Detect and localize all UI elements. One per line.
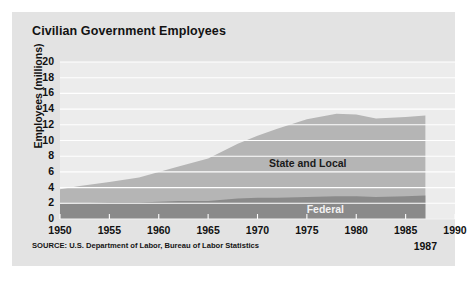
y-axis-tick-20: 20 <box>28 55 54 67</box>
x-axis-tick-1960: 1960 <box>136 224 182 236</box>
y-axis-tick-8: 8 <box>28 149 54 161</box>
x-axis-tick-1955: 1955 <box>86 224 132 236</box>
series-label-state-and-local: State and Local <box>269 157 347 169</box>
source-note: SOURCE: U.S. Department of Labor, Bureau… <box>32 241 259 250</box>
y-axis-tick-0: 0 <box>28 212 54 224</box>
end-year-annotation: 1987 <box>402 240 448 252</box>
series-label-federal: Federal <box>307 203 344 215</box>
x-axis-tick-1990: 1990 <box>432 224 471 236</box>
x-axis-tick-1950: 1950 <box>37 224 83 236</box>
y-axis-tick-4: 4 <box>28 181 54 193</box>
x-axis-tick-1965: 1965 <box>185 224 231 236</box>
y-axis-tick-10: 10 <box>28 134 54 146</box>
y-axis-tick-12: 12 <box>28 118 54 130</box>
y-axis-tick-6: 6 <box>28 165 54 177</box>
y-axis-tick-14: 14 <box>28 102 54 114</box>
x-axis-tick-1985: 1985 <box>383 224 429 236</box>
y-axis-tick-16: 16 <box>28 86 54 98</box>
y-axis-tick-2: 2 <box>28 196 54 208</box>
x-axis-tick-1980: 1980 <box>333 224 379 236</box>
y-axis-tick-18: 18 <box>28 71 54 83</box>
chart-panel: Civilian Government Employees Employees … <box>12 12 455 266</box>
x-axis-tick-1970: 1970 <box>235 224 281 236</box>
x-axis-tick-1975: 1975 <box>284 224 330 236</box>
